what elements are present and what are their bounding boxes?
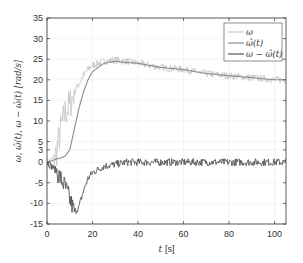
y-tick-label: 15 <box>33 95 43 105</box>
y-tick-label: 5 <box>38 137 43 147</box>
series-group <box>47 57 286 214</box>
line-chart: 020406080100-15-10-5035101520253035t [s]… <box>0 0 303 263</box>
chart-figure: 020406080100-15-10-5035101520253035t [s]… <box>0 0 303 263</box>
series-line-2 <box>47 159 286 214</box>
y-tick-label: 35 <box>33 13 43 23</box>
x-tick-label: 60 <box>179 229 189 239</box>
legend-label-1: ω̂(t) <box>246 38 263 48</box>
x-tick-label: 20 <box>88 229 98 239</box>
y-tick-label: 30 <box>33 34 43 44</box>
y-tick-label: -10 <box>30 198 43 208</box>
y-tick-label: 10 <box>33 116 43 126</box>
x-tick-label: 80 <box>224 229 234 239</box>
x-tick-label: 40 <box>133 229 143 239</box>
y-tick-label: -5 <box>35 178 43 188</box>
x-axis-label: t [s] <box>159 244 175 254</box>
y-tick-label: 25 <box>33 54 43 64</box>
legend-label-2: ω − ω̂(t) <box>246 49 282 59</box>
y-tick-label: 20 <box>33 75 43 85</box>
legend-label-0: ω <box>246 27 253 37</box>
x-tick-label: 100 <box>267 229 282 239</box>
y-tick-label: -15 <box>30 219 43 229</box>
y-axis-label: ω, ω̂(t), ω − ω̂(t) [rad/s] <box>13 59 23 162</box>
y-tick-label: 0 <box>38 157 43 167</box>
x-tick-label: 0 <box>44 229 49 239</box>
legend: ωω̂(t)ω − ω̂(t) <box>224 23 282 61</box>
